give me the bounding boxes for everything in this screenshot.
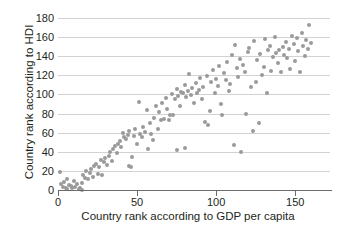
data-point	[228, 82, 232, 86]
data-point	[129, 165, 133, 169]
data-point	[65, 177, 69, 181]
data-point	[119, 145, 123, 149]
data-point	[143, 130, 147, 134]
data-point	[200, 97, 204, 101]
data-point	[217, 64, 221, 68]
data-point	[118, 139, 122, 143]
data-point	[243, 70, 247, 74]
data-point	[208, 109, 212, 113]
y-axis-label: Country rank according to HDI	[23, 7, 35, 197]
data-point	[236, 75, 240, 79]
data-point	[107, 154, 111, 158]
x-axis-line	[58, 190, 332, 191]
data-point	[148, 121, 152, 125]
data-point	[97, 165, 101, 169]
data-point	[132, 134, 136, 138]
data-point	[186, 89, 190, 93]
data-point	[124, 137, 128, 141]
data-point	[279, 70, 283, 74]
data-point	[151, 138, 155, 142]
data-point	[160, 101, 164, 105]
data-point	[244, 112, 248, 116]
data-point	[201, 85, 205, 89]
data-point	[176, 94, 180, 98]
x-axis-tick-label: 50	[131, 196, 143, 208]
gridline	[58, 94, 330, 95]
data-point	[100, 173, 104, 177]
data-point	[192, 101, 196, 105]
data-point	[293, 59, 297, 63]
data-point	[189, 93, 193, 97]
data-point	[271, 55, 275, 59]
data-point	[300, 31, 304, 35]
data-point	[194, 81, 198, 85]
data-point	[162, 117, 166, 121]
data-point	[220, 113, 224, 117]
data-point	[133, 127, 137, 131]
data-point	[232, 143, 236, 147]
x-axis-tick-label: 100	[207, 196, 225, 208]
data-point	[306, 47, 310, 51]
data-point	[255, 58, 259, 62]
data-point	[141, 125, 145, 129]
data-point	[307, 23, 311, 27]
data-point	[184, 95, 188, 99]
y-axis-tick-label: 0	[48, 184, 54, 196]
data-point	[257, 121, 261, 125]
y-axis-tick-label: 100	[36, 88, 54, 100]
data-point	[260, 73, 264, 77]
data-point	[292, 42, 296, 46]
data-point	[137, 100, 141, 104]
data-point	[211, 68, 215, 72]
data-point	[304, 38, 308, 42]
data-point	[262, 65, 266, 69]
data-point	[183, 146, 187, 150]
data-point	[86, 177, 90, 181]
gridline	[58, 75, 330, 76]
data-point	[164, 96, 168, 100]
data-point	[251, 129, 255, 133]
data-point	[224, 78, 228, 82]
data-point	[235, 66, 239, 70]
data-point	[198, 76, 202, 80]
plot-area	[58, 18, 330, 190]
data-point	[80, 181, 84, 185]
data-point	[263, 37, 267, 41]
data-point	[298, 70, 302, 74]
data-point	[238, 57, 242, 61]
data-point	[152, 116, 156, 120]
data-point	[254, 80, 258, 84]
data-point	[285, 56, 289, 60]
gridline	[58, 56, 330, 57]
data-point	[233, 43, 237, 47]
y-axis-tick-label: 20	[42, 165, 54, 177]
data-point	[110, 159, 114, 163]
data-point	[303, 54, 307, 58]
data-point	[219, 102, 223, 106]
data-point	[265, 91, 269, 95]
data-point	[178, 104, 182, 108]
gridline	[58, 133, 330, 134]
data-point	[277, 48, 281, 52]
data-point	[105, 163, 109, 167]
data-point	[156, 127, 160, 131]
data-point	[157, 110, 161, 114]
data-point	[135, 142, 139, 146]
data-point	[171, 113, 175, 117]
x-axis-label: Country rank according to GDP per capita	[0, 210, 342, 222]
data-point	[167, 118, 171, 122]
data-point	[269, 69, 273, 73]
data-point	[287, 47, 291, 51]
data-point	[309, 41, 313, 45]
data-point	[247, 46, 251, 50]
data-point	[91, 175, 95, 179]
data-point	[145, 108, 149, 112]
y-axis-tick-label: 180	[36, 12, 54, 24]
data-point	[88, 171, 92, 175]
data-point	[249, 85, 253, 89]
data-point	[183, 83, 187, 87]
data-point	[246, 50, 250, 54]
data-point	[284, 40, 288, 44]
data-point	[154, 104, 158, 108]
data-point	[190, 86, 194, 90]
